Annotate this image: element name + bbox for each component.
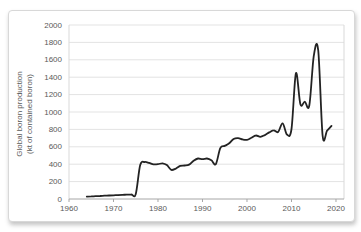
- y-axis-title-line2: (kt of contained boron): [25, 74, 34, 154]
- y-axis-title-line1: Global boron production: [15, 71, 24, 156]
- x-tick-label: 1990: [194, 204, 212, 213]
- data-line: [87, 44, 332, 197]
- y-tick-label: 1400: [44, 73, 62, 82]
- chart-frame: Global boron production (kt of contained…: [8, 10, 355, 222]
- y-tick-label: 600: [49, 142, 63, 151]
- y-tick-label: 1200: [44, 90, 62, 99]
- x-tick-label: 2010: [283, 204, 301, 213]
- y-tick-label: 0: [58, 195, 63, 204]
- y-tick-label: 2000: [44, 21, 62, 30]
- x-tick-label: 2020: [327, 204, 345, 213]
- y-tick-label: 1600: [44, 55, 62, 64]
- x-tick-label: 1960: [60, 204, 78, 213]
- plot-area: 0200400600800100012001400160018002000196…: [44, 21, 345, 214]
- x-tick-label: 1970: [105, 204, 123, 213]
- boron-production-line-chart: Global boron production (kt of contained…: [9, 11, 354, 221]
- y-tick-label: 400: [49, 160, 63, 169]
- y-tick-label: 1800: [44, 38, 62, 47]
- x-tick-label: 2000: [238, 204, 256, 213]
- y-tick-label: 200: [49, 177, 63, 186]
- y-tick-label: 800: [49, 125, 63, 134]
- x-tick-label: 1980: [149, 204, 167, 213]
- y-tick-label: 1000: [44, 108, 62, 117]
